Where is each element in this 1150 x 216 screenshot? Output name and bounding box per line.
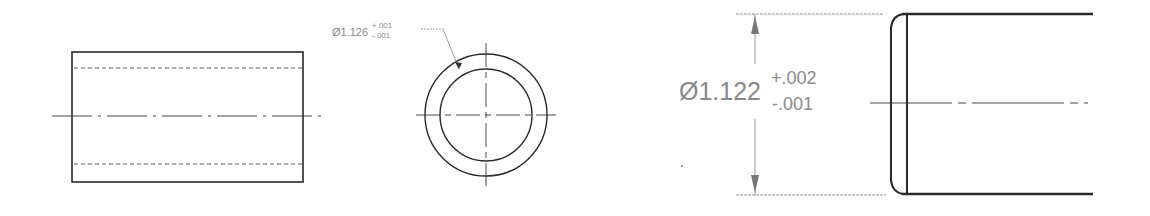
detail-tol-plus: +.002 [771, 68, 817, 88]
arrow-down-icon [751, 175, 759, 193]
detail-tol-minus: -.001 [772, 94, 813, 114]
leader-arrow-icon [455, 62, 462, 69]
drawing-canvas: Ø1.126 +.001 -.001 Ø1.122 +.002 -.001 [0, 0, 1150, 216]
end-view: Ø1.126 +.001 -.001 [332, 21, 556, 186]
side-view [52, 52, 323, 182]
detail-dimension-nominal: Ø1.122 [679, 77, 761, 105]
chamfer-curve [891, 14, 903, 194]
end-view-tol-minus: -.001 [372, 31, 391, 40]
tube-outline [72, 52, 303, 182]
end-view-tol-plus: +.001 [372, 21, 393, 30]
stray-dot [681, 165, 683, 167]
end-view-dimension-nominal: Ø1.126 [332, 26, 368, 38]
detail-view: Ø1.122 +.002 -.001 [679, 14, 1093, 195]
arrow-up-icon [751, 16, 759, 34]
